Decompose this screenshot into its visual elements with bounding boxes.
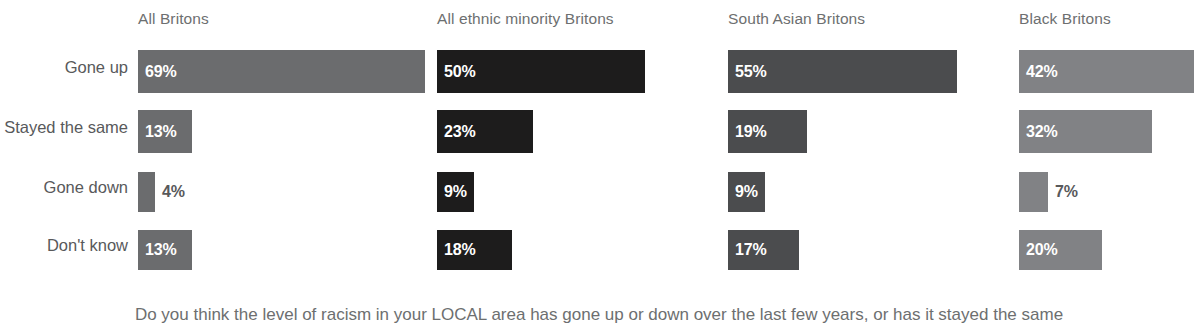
row-label: Gone down [0, 178, 128, 197]
column-header: Black Britons [1019, 10, 1111, 28]
chart-caption: Do you think the level of racism in your… [0, 305, 1198, 325]
bar-value-label: 32% [1026, 124, 1057, 140]
bar: 17% [728, 230, 799, 270]
bar-value-label: 23% [444, 124, 475, 140]
bar: 9% [728, 172, 765, 212]
bar: 23% [437, 110, 533, 153]
bar-value-label: 7% [1055, 184, 1078, 200]
column-header: South Asian Britons [728, 10, 865, 28]
bar-value-label: 42% [1026, 64, 1057, 80]
bar: 50% [437, 50, 645, 93]
bar-value-label: 9% [444, 184, 467, 200]
column-header: All ethnic minority Britons [437, 10, 614, 28]
row-label: Don't know [0, 236, 128, 255]
row-label: Stayed the same [0, 118, 128, 137]
bar: 19% [728, 110, 807, 153]
bar: 9% [437, 172, 474, 212]
bar-value-label: 17% [735, 242, 766, 258]
bar-value-label: 18% [444, 242, 475, 258]
bar-value-label: 4% [162, 184, 185, 200]
bar-value-label: 50% [444, 64, 475, 80]
bar [1019, 172, 1048, 212]
bar-value-label: 9% [735, 184, 758, 200]
bar: 13% [138, 230, 192, 270]
bar-value-label: 19% [735, 124, 766, 140]
bar: 42% [1019, 50, 1194, 93]
bar: 20% [1019, 230, 1102, 270]
row-label: Gone up [0, 58, 128, 77]
bar [138, 172, 155, 212]
bar: 13% [138, 110, 192, 153]
bar: 55% [728, 50, 957, 93]
bar-value-label: 69% [145, 64, 176, 80]
bar: 18% [437, 230, 512, 270]
bar-value-label: 13% [145, 124, 176, 140]
bar-value-label: 20% [1026, 242, 1057, 258]
bar: 69% [138, 50, 425, 93]
bar: 32% [1019, 110, 1152, 153]
bar-value-label: 55% [735, 64, 766, 80]
column-header: All Britons [138, 10, 209, 28]
bar-value-label: 13% [145, 242, 176, 258]
